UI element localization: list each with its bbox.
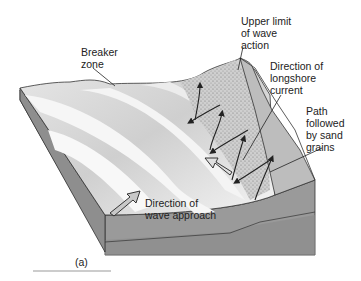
label-longshore-current: Direction of longshore current — [270, 60, 323, 96]
longshore-current-diagram: Breaker zone Upper limit of wave action … — [0, 0, 361, 281]
panel-label: (a) — [75, 256, 88, 268]
label-breaker-zone: Breaker zone — [81, 46, 118, 70]
label-sand-grain-path: Path followed by sand grains — [306, 105, 345, 153]
label-upper-limit-wave-action: Upper limit of wave action — [241, 15, 291, 51]
label-wave-approach: Direction of wave approach — [145, 197, 216, 221]
